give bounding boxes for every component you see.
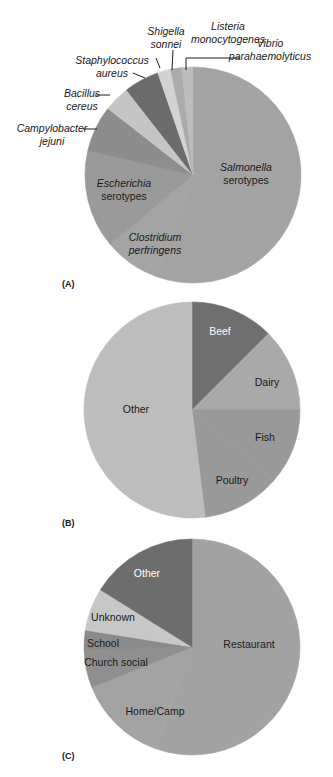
panel-label-c: (C) — [62, 751, 75, 761]
leader-line — [156, 58, 160, 68]
slice-label-poultry: Poultry — [216, 474, 249, 486]
pie-chart-c-settings: RestaurantHome/CampChurch socialSchoolUn… — [84, 539, 300, 755]
slice-label-other: Other — [123, 403, 150, 415]
slice-label-restaurant: Restaurant — [223, 638, 274, 650]
pie-figure: SalmonellaserotypesClostridiumperfringen… — [0, 0, 333, 777]
slice-label-fish: Fish — [255, 431, 275, 443]
panel-labels: (A)(B)(C) — [62, 279, 75, 761]
slice-label-dairy: Dairy — [255, 376, 280, 388]
slice-label-salmonella-serotypes: Salmonellaserotypes — [220, 161, 272, 186]
slice-label-clostridium-perfringens: Clostridiumperfringens — [128, 231, 182, 256]
leader-line — [133, 73, 145, 78]
panel-label-a: (A) — [62, 279, 75, 289]
outside-label-bacillus-cereus: Bacilluscereus — [64, 87, 101, 112]
leader-line — [172, 50, 173, 70]
slice-label-school: School — [87, 637, 119, 649]
slice-label-church-social: Church social — [84, 656, 148, 668]
outside-label-campylobacter-jejuni: Campylobacterjejuni — [17, 122, 88, 147]
pie-chart-a-pathogens: SalmonellaserotypesClostridiumperfringen… — [17, 20, 312, 283]
outside-label-listeria-monocytogenes: Listeriamonocytogenes — [191, 20, 266, 45]
outside-label-shigella-sonnei: Shigellasonnei — [147, 25, 185, 50]
slice-label-beef: Beef — [209, 325, 231, 337]
slice-label-home-camp: Home/Camp — [126, 705, 185, 717]
panel-label-b: (B) — [62, 518, 75, 528]
slice-label-other: Other — [134, 567, 161, 579]
pie-chart-b-foods: BeefDairyFishPoultryOther — [84, 302, 300, 518]
slice-label-unknown: Unknown — [91, 611, 135, 623]
slice-label-escherichia-serotypes: Escherichiaserotypes — [97, 177, 151, 202]
